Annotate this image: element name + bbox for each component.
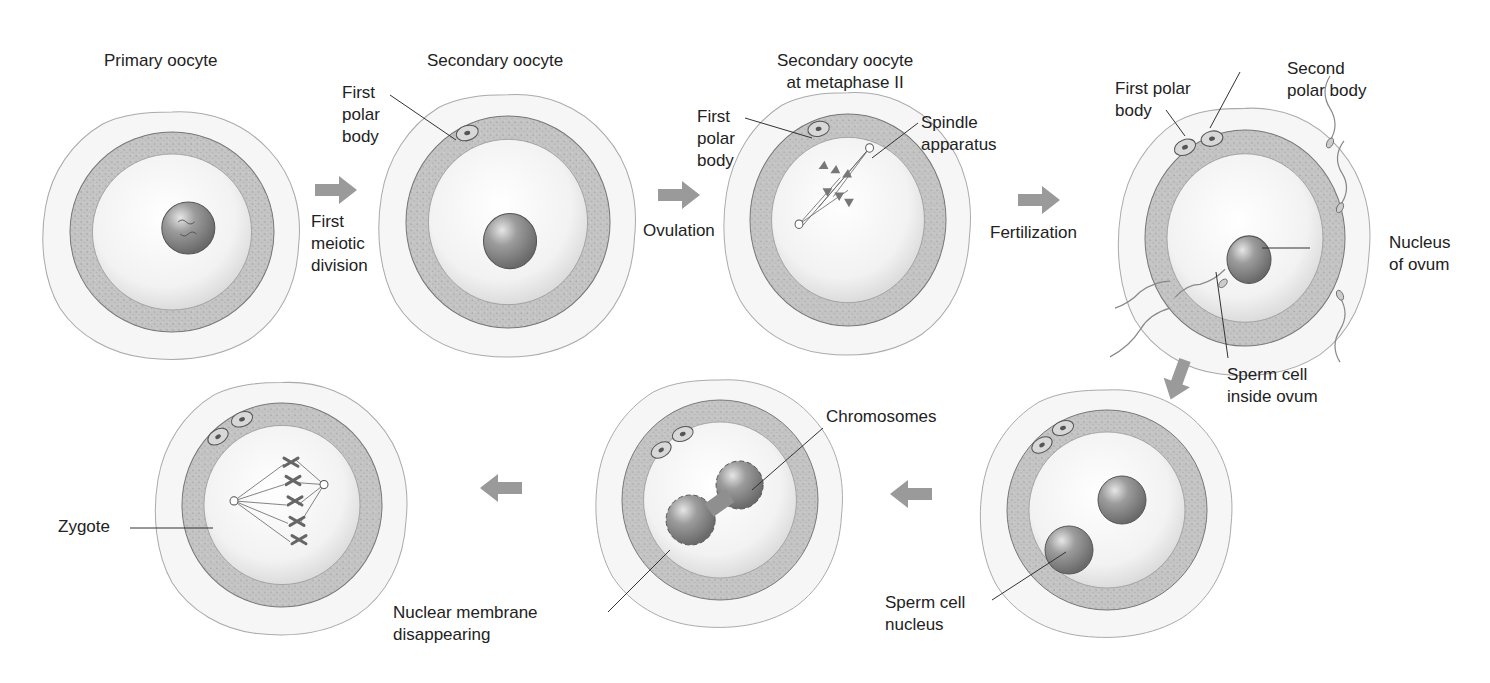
- label-zygote: Zygote: [58, 516, 110, 538]
- label-chromosomes: Chromosomes: [826, 406, 937, 428]
- label-second-polar-body: Second polar body: [1287, 58, 1366, 102]
- label-sperm-cell-nucleus: Sperm cell nucleus: [885, 592, 965, 636]
- label-first-polar-body-3: First polar body: [1115, 78, 1191, 122]
- arrow-left-icon: [480, 474, 522, 502]
- label-sperm-inside-ovum: Sperm cell inside ovum: [1227, 364, 1318, 408]
- arrow-right-icon: [1018, 186, 1060, 214]
- cell-secondary-oocyte: [379, 95, 636, 357]
- label-first-polar-body-2: First polar body: [697, 106, 735, 172]
- label-first-meiotic-division: First meiotic division: [311, 211, 368, 277]
- cell-membrane-disappearing: [596, 380, 843, 628]
- label-ovulation: Ovulation: [643, 220, 715, 242]
- label-metaphase-ii: Secondary oocyte at metaphase II: [777, 50, 913, 94]
- label-primary-oocyte: Primary oocyte: [104, 50, 217, 72]
- label-nuclear-membrane: Nuclear membrane disappearing: [393, 602, 538, 646]
- arrow-left-icon: [890, 480, 932, 508]
- label-spindle-apparatus: Spindle apparatus: [921, 112, 997, 156]
- oogenesis-diagram: Primary oocyte First meiotic division Se…: [0, 0, 1490, 683]
- diagram-canvas: [0, 0, 1490, 683]
- arrow-right-icon: [658, 181, 700, 209]
- label-nucleus-of-ovum: Nucleus of ovum: [1389, 232, 1450, 276]
- arrow-right-icon: [315, 176, 357, 204]
- label-fertilization: Fertilization: [990, 222, 1077, 244]
- cell-zygote: [155, 382, 407, 635]
- cell-primary-oocyte: [43, 112, 300, 360]
- label-secondary-oocyte: Secondary oocyte: [427, 50, 563, 72]
- label-first-polar-body: First polar body: [342, 82, 380, 148]
- cell-pronuclei: [980, 390, 1232, 638]
